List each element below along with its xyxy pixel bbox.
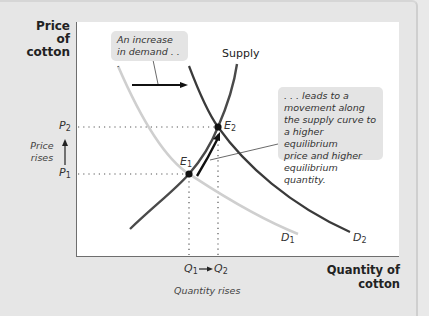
supply-label: Supply: [222, 47, 260, 60]
q2-sub: 2: [223, 267, 228, 276]
movement-callout-line4: a higher equilibrium: [284, 126, 377, 150]
movement-callout: . . . leads to a movement along the supp…: [278, 87, 383, 160]
demand-shift-arrowhead-icon: [180, 82, 188, 88]
d2-label: D2: [353, 231, 367, 245]
quantity-rises-label: Quantity rises: [174, 285, 240, 296]
q2-tick-label: Q2: [214, 262, 228, 276]
movement-arrow: [197, 138, 218, 176]
quantity-arrowhead-icon: [207, 267, 213, 272]
p2-main: P: [59, 119, 66, 132]
price-rises-line1: Price: [28, 140, 56, 152]
equilibrium-point-e1: [185, 170, 192, 177]
d2-label-sub: 2: [361, 236, 366, 245]
e2-label: E2: [224, 119, 236, 133]
d1-label-sub: 1: [289, 236, 294, 245]
p1-tick-label: P1: [59, 166, 71, 180]
p1-main: P: [59, 166, 66, 179]
demand-increase-callout: An increase in demand . . .: [111, 31, 188, 61]
movement-callout-line2: movement along: [284, 102, 377, 114]
q2-main: Q: [214, 262, 223, 275]
e1-label: E1: [180, 155, 192, 169]
movement-callout-line1: . . . leads to a: [284, 90, 377, 102]
price-rises-arrowhead-icon: [62, 139, 68, 146]
d1-label: D1: [281, 231, 295, 245]
p1-sub: 1: [66, 171, 71, 180]
price-rises-line2: rises: [28, 152, 56, 164]
e2-label-sub: 2: [231, 124, 236, 133]
price-rises-label: Price rises: [28, 140, 56, 164]
movement-callout-line6: equilibrium quantity.: [284, 162, 377, 186]
supply-curve: [130, 64, 237, 229]
equilibrium-point-e2: [214, 123, 221, 130]
p2-sub: 2: [66, 124, 71, 133]
e1-label-main: E: [180, 155, 187, 168]
demand-callout-line1: An increase: [117, 34, 182, 46]
p2-tick-label: P2: [59, 119, 71, 133]
movement-callout-line3: the supply curve to: [284, 114, 377, 126]
q1-main: Q: [184, 262, 193, 275]
movement-callout-line5: price and higher: [284, 150, 377, 162]
e2-label-main: E: [224, 119, 231, 132]
q1-tick-label: Q1: [184, 262, 198, 276]
demand-callout-line2: in demand . . .: [117, 46, 182, 70]
q1-sub: 1: [193, 267, 198, 276]
demand-curve-d1: [118, 66, 298, 234]
e1-label-sub: 1: [187, 160, 192, 169]
